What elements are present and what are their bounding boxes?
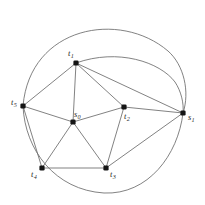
vertex-label-sub-s0: 0 (78, 113, 81, 120)
vertex-label-s0: s0 (74, 110, 80, 119)
vertex-t4 (39, 165, 44, 170)
edge-t2-t3 (106, 107, 124, 168)
vertex-label-sub-t3: 3 (113, 173, 116, 180)
vertex-label-sub-t1: 1 (71, 52, 74, 59)
edge-t2-s1 (124, 107, 183, 113)
graph-diagram: t1t2t3t4t5s0s1 (0, 0, 205, 205)
vertex-t3 (103, 165, 108, 170)
vertex-label-sub-t2: 2 (127, 115, 130, 122)
edge-t3-s1 (106, 113, 183, 168)
vertex-label-s1: s1 (188, 113, 194, 122)
straight-edge-group (23, 63, 183, 168)
vertex-label-base-s0: s (74, 109, 77, 119)
edge-s0-t3 (73, 122, 106, 168)
curved-edge-t5-s1 (23, 29, 186, 113)
curved-edge-t1-s1 (76, 57, 183, 113)
edge-t5-t4 (23, 106, 42, 168)
vertex-label-t3: t3 (110, 170, 115, 179)
vertex-label-t5: t5 (11, 98, 16, 107)
vertex-label-t4: t4 (31, 170, 36, 179)
vertex-s1 (180, 110, 185, 115)
vertex-label-sub-s1: 1 (192, 116, 195, 123)
vertex-label-sub-t4: 4 (34, 173, 37, 180)
vertex-t2 (121, 104, 126, 109)
vertex-label-t2: t2 (124, 112, 129, 121)
edge-t5-t1 (23, 63, 76, 106)
edge-s0-t4 (42, 122, 73, 168)
vertex-label-base-s1: s (188, 112, 191, 122)
edge-t1-s1 (76, 63, 183, 113)
vertex-label-sub-t5: 5 (14, 101, 17, 108)
curved-edge-t5-s1 (23, 106, 183, 193)
edge-t5-s0 (23, 106, 73, 122)
edge-t1-t2 (76, 63, 124, 107)
vertex-group (20, 60, 185, 170)
vertex-t1 (73, 60, 78, 65)
vertex-t5 (20, 103, 25, 108)
vertex-s0 (70, 119, 75, 124)
vertex-label-t1: t1 (68, 49, 73, 58)
